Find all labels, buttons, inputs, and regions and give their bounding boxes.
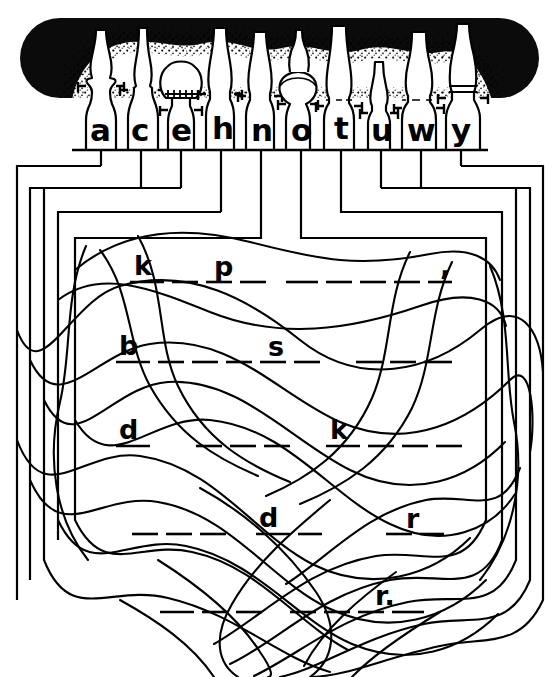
line2-clue-b: b [119, 332, 138, 359]
line3-clue-d: d [119, 416, 138, 443]
alphabet-letter-t: t [334, 113, 349, 144]
line1-comma: , [440, 252, 450, 279]
alphabet-letter-c: c [131, 115, 149, 146]
line2-clue-s: s [268, 333, 284, 360]
line4-clue-d: d [259, 504, 278, 531]
alphabet-letter-y: y [451, 115, 471, 146]
alphabet-letter-n: n [251, 115, 273, 146]
line4-clue-r: r [406, 505, 419, 532]
alphabet-letter-w: w [407, 115, 436, 146]
alphabet-letter-a: a [90, 115, 111, 146]
letter-drop-lines [101, 150, 461, 212]
alphabet-letter-o: o [291, 115, 312, 146]
line1-clue-p: p [214, 253, 233, 280]
line3-clue-k: k [330, 416, 348, 443]
alphabet-letter-h: h [212, 113, 234, 144]
alphabet-letter-u: u [371, 115, 393, 146]
line1-clue-k: k [134, 252, 152, 279]
tangled-curves [17, 233, 543, 677]
alphabet-letter-e: e [171, 115, 192, 146]
puzzle-page: a c e h n o t u w y k p , b s d k d r r. [0, 0, 559, 677]
line5-clue-r: r. [375, 582, 395, 609]
